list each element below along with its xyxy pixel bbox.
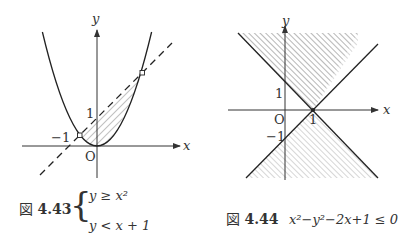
x-axis-label: x [383, 103, 390, 116]
x-axis-label: x [183, 139, 190, 152]
tick-x-1: 1 [309, 113, 317, 126]
tick-y-neg1: −1 [266, 130, 285, 143]
y-axis-label: y [282, 14, 289, 27]
origin-label: O [274, 113, 285, 126]
intersection-point-left [78, 133, 83, 138]
inequality: x²−y²−2x+1 ≤ 0 [289, 212, 398, 227]
y-axis-label: y [92, 12, 99, 25]
figure-number: 4.43 [37, 201, 71, 217]
figure-4-43 [22, 30, 180, 178]
tick-y-1: 1 [86, 107, 94, 120]
figure-prefix: 図 [226, 211, 240, 227]
inequality-1: y ≥ x² [89, 188, 128, 203]
figure-4-44 [228, 26, 380, 180]
figure-prefix: 図 [19, 201, 33, 217]
figure-number: 4.44 [244, 211, 278, 227]
origin-label: O [85, 150, 96, 163]
tick-y-1: 1 [275, 87, 283, 100]
tick-x-neg1: −1 [51, 131, 70, 144]
caption-4-44: 図 4.44 x²−y²−2x+1 ≤ 0 [226, 208, 398, 228]
inequality-2: y < x + 1 [89, 218, 150, 233]
intersection-point-right [140, 71, 145, 76]
caption-4-43: 図 4.43 [19, 198, 72, 218]
